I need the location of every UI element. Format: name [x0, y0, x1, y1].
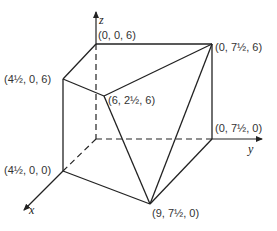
edge-p4-p2 — [104, 44, 212, 96]
point-label-4.5-0-0: (4½, 0, 0) — [4, 164, 51, 176]
point-label-0-7.5-0: (0, 7½, 0) — [215, 122, 262, 134]
edge-p6-p7 — [63, 171, 150, 204]
point-label-6-2.5-6: (6, 2½, 6) — [108, 94, 155, 106]
edge-p4-p7 — [104, 96, 150, 204]
point-label-9-7.5-0: (9, 7½, 0) — [152, 207, 199, 219]
y-axis-label: y — [247, 142, 254, 156]
edge-top-left — [63, 44, 96, 79]
solid-edges — [63, 44, 212, 204]
point-label-0-7.5-6: (0, 7½, 6) — [215, 41, 262, 53]
edge-p3-p4 — [63, 79, 104, 96]
hidden-edges — [63, 44, 212, 171]
point-label-0-0-6: (0, 0, 6) — [98, 29, 136, 41]
edge-p2-p7 — [150, 44, 212, 204]
x-axis-hidden — [63, 139, 96, 171]
solid-diagram: z y x (0, 0, 6) (0, 7½, 6) (4½, 0, 6) (6… — [0, 0, 277, 231]
z-axis-label: z — [98, 13, 104, 27]
x-axis-label: x — [28, 203, 35, 217]
edge-p5-p7 — [150, 139, 212, 204]
point-label-4.5-0-6: (4½, 0, 6) — [4, 73, 51, 85]
